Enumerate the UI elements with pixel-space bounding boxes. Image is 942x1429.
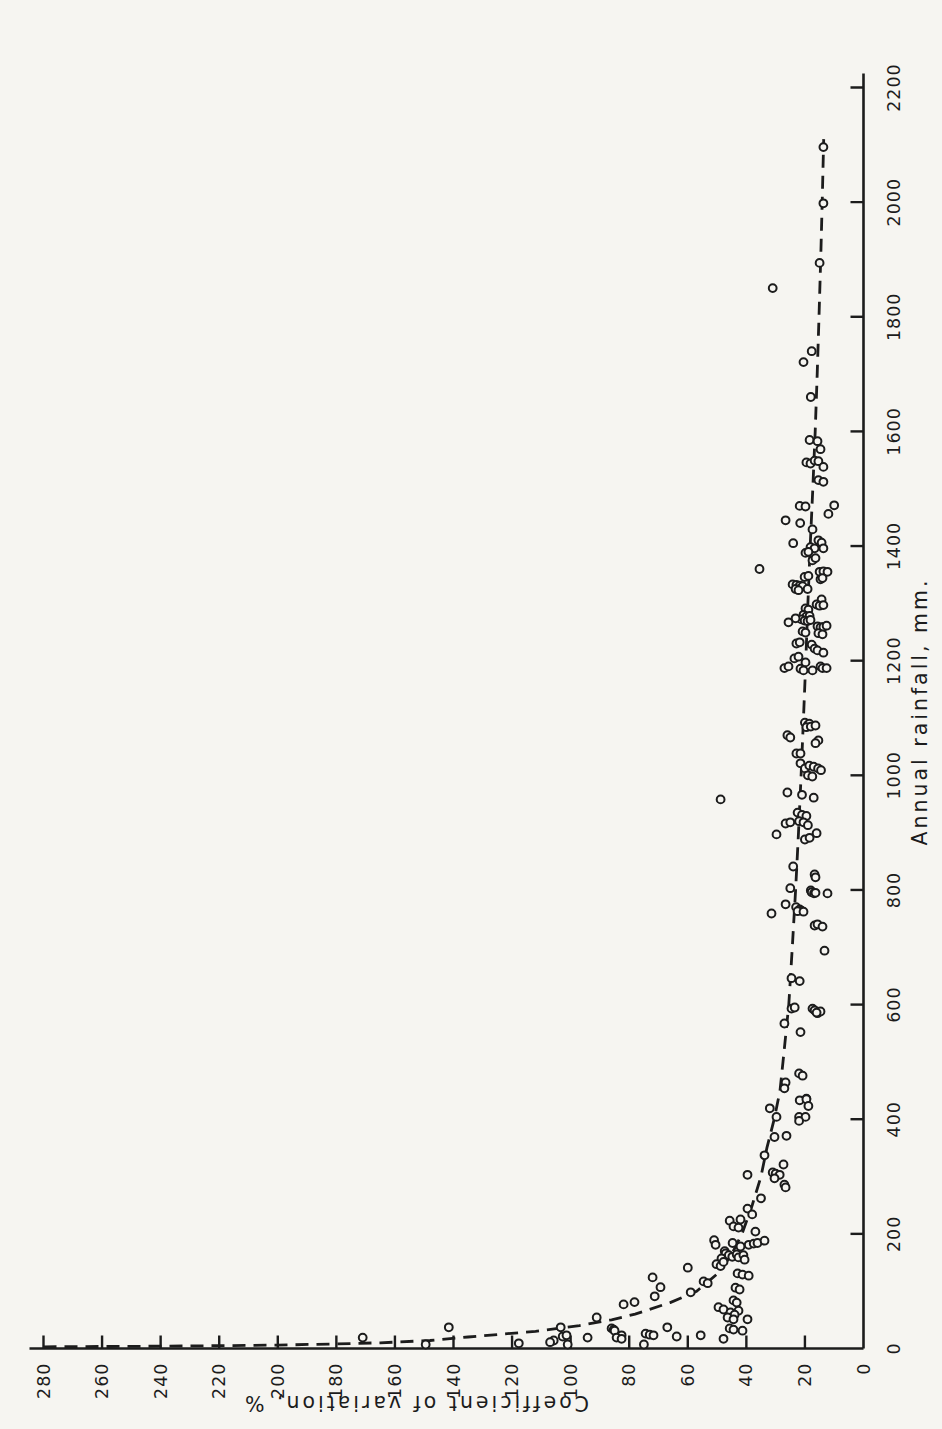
y-tick-label: 260 [92, 1362, 112, 1398]
scatter-point [743, 1315, 751, 1323]
scatter-point [808, 772, 816, 780]
y-tick-label: 280 [33, 1362, 53, 1398]
scatter-point [811, 888, 819, 896]
scatter-point [811, 554, 819, 562]
scatter-point [729, 1325, 737, 1333]
x-tick-label: 2000 [883, 177, 903, 226]
scatter-point [795, 977, 803, 985]
scatter-point [770, 1174, 778, 1182]
scatter-point [686, 1288, 694, 1296]
scatter-point [819, 463, 827, 471]
scatter-point [630, 1298, 638, 1306]
scatter-point [583, 1333, 591, 1341]
scatter-point [819, 648, 827, 656]
scatter-point [672, 1332, 680, 1340]
scatter-point [711, 1240, 719, 1248]
scatter-point [650, 1292, 658, 1300]
scatter-point [815, 259, 823, 267]
scatter-point [811, 873, 819, 881]
scatter-point [736, 1242, 744, 1250]
scatter-point [809, 793, 817, 801]
y-tick-label: 80 [619, 1362, 639, 1386]
scatter-point [789, 862, 797, 870]
scatter-point [796, 749, 804, 757]
scatter-point [824, 510, 832, 518]
scatter-point [783, 788, 791, 796]
scatter-point [683, 1263, 691, 1271]
scatter-point [784, 618, 792, 626]
y-axis-title: Coefficient of variation, % [241, 1390, 588, 1414]
scatter-point [421, 1340, 429, 1348]
x-tick-label: 1200 [883, 636, 903, 685]
scatter-point [804, 572, 812, 580]
scatter-point [796, 1028, 804, 1036]
scatter-point [779, 1160, 787, 1168]
scatter-point [801, 628, 809, 636]
scatter-point [732, 1298, 740, 1306]
scatter-point [757, 1194, 765, 1202]
scatter-point [804, 1102, 812, 1110]
scatter-point [808, 525, 816, 533]
x-tick-label: 400 [883, 1101, 903, 1137]
scatter-point [798, 790, 806, 798]
trend-curve [43, 139, 823, 1347]
scatter-point [767, 909, 775, 917]
scatter-point [787, 974, 795, 982]
scatter-point [751, 1227, 759, 1235]
scatter-point [768, 284, 776, 292]
x-tick-label: 1400 [883, 521, 903, 570]
scatter-point [830, 501, 838, 509]
scatter-point [736, 1215, 744, 1223]
scatter-point [819, 143, 827, 151]
scatter-point [782, 1131, 790, 1139]
scatter-point [640, 1340, 648, 1348]
scatter-point [738, 1326, 746, 1334]
scatter-point [808, 666, 816, 674]
scatter-point [770, 1133, 778, 1141]
scatter-point [728, 1239, 736, 1247]
scatter-point [813, 437, 821, 445]
scatter-point [811, 721, 819, 729]
scatter-point [740, 1255, 748, 1263]
x-axis-title: Annual rainfall, mm. [907, 577, 931, 845]
scatter-point [801, 502, 809, 510]
scatter-point [781, 516, 789, 524]
scatter-point [735, 1285, 743, 1293]
scatter-point [818, 922, 826, 930]
scatter-point [795, 1117, 803, 1125]
scatter-point [734, 1223, 742, 1231]
scatter-point [819, 544, 827, 552]
scatter-point [799, 358, 807, 366]
scatter-point [795, 638, 803, 646]
scatter-point [617, 1334, 625, 1342]
scatter-point [798, 1071, 806, 1079]
scatter-point [812, 1008, 820, 1016]
rotated-chart-canvas: 0200400600800100012001400160018002000220… [0, 0, 942, 1429]
scatter-point [663, 1323, 671, 1331]
scatter-point [786, 884, 794, 892]
scatter-point [748, 1210, 756, 1218]
scatter-point [514, 1339, 522, 1347]
scatter-point [772, 830, 780, 838]
scatter-point [818, 574, 826, 582]
scatter-point [744, 1271, 752, 1279]
scatter-point [696, 1331, 704, 1339]
x-tick-label: 1600 [883, 407, 903, 456]
scatter-point [562, 1331, 570, 1339]
scatter-point [648, 1273, 656, 1281]
scatter-point [716, 795, 724, 803]
scatter-point [546, 1338, 554, 1346]
scatter-point [772, 1113, 780, 1121]
scatter-point [811, 739, 819, 747]
scatter-point [563, 1340, 571, 1348]
scatter-point [781, 1183, 789, 1191]
scatter-point [807, 347, 815, 355]
scatter-point [592, 1313, 600, 1321]
scatter-point [786, 733, 794, 741]
scatter-point [799, 907, 807, 915]
rainfall-cv-scatter-chart: 0200400600800100012001400160018002000220… [0, 0, 942, 1429]
scatter-point [794, 652, 802, 660]
scatter-point [649, 1331, 657, 1339]
scatter-point [820, 946, 828, 954]
scatter-point [786, 818, 794, 826]
